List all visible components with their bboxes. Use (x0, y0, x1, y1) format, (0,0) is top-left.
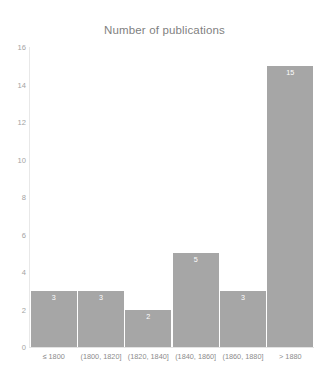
chart-container: Number of publications 1614121086420 332… (0, 0, 329, 390)
bar-value-label: 3 (220, 293, 266, 302)
y-axis-tick-labels: 1614121086420 (0, 0, 26, 390)
bar-group: 3 (78, 47, 124, 347)
y-axis-tick-label: 14 (4, 80, 26, 89)
x-axis-tick-label: (1800, 1820] (77, 352, 124, 361)
x-axis-tick-label: ≤ 1800 (30, 352, 77, 361)
bar-value-label: 3 (78, 293, 124, 302)
bar[interactable] (173, 253, 219, 347)
x-axis-line (29, 347, 314, 348)
y-axis-tick-label: 10 (4, 155, 26, 164)
y-axis-tick-label: 12 (4, 118, 26, 127)
bar-group: 5 (173, 47, 219, 347)
bar-group: 3 (31, 47, 77, 347)
bar-value-label: 3 (31, 293, 77, 302)
x-axis-tick-labels: ≤ 1800(1800, 1820](1820, 1840](1840, 186… (30, 352, 314, 370)
x-axis-tick-label: > 1880 (267, 352, 314, 361)
chart-title: Number of publications (0, 24, 329, 36)
y-axis-tick-label: 6 (4, 230, 26, 239)
x-axis-tick-label: (1840, 1860] (172, 352, 219, 361)
bar[interactable] (267, 66, 313, 347)
bar-group: 15 (267, 47, 313, 347)
y-axis-tick-label: 4 (4, 268, 26, 277)
y-axis-tick-label: 2 (4, 305, 26, 314)
y-axis-tick-label: 0 (4, 343, 26, 352)
x-axis-tick-label: (1820, 1840] (125, 352, 172, 361)
bar-value-label: 2 (125, 312, 171, 321)
y-axis-tick-label: 8 (4, 193, 26, 202)
plot-area: 3325315 (30, 47, 314, 347)
bar-value-label: 15 (267, 68, 313, 77)
y-axis-tick-label: 16 (4, 43, 26, 52)
bar-group: 2 (125, 47, 171, 347)
bar-group: 3 (220, 47, 266, 347)
bar-value-label: 5 (173, 255, 219, 264)
x-axis-tick-label: (1860, 1880] (219, 352, 266, 361)
